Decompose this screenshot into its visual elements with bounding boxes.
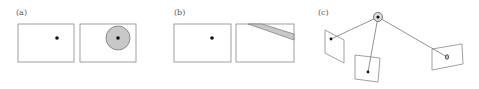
panel-a-right-point <box>116 36 120 40</box>
panel-c-center-point <box>376 15 379 18</box>
panel-c-label: (c) <box>318 8 329 17</box>
panel-b: (b) <box>174 8 294 62</box>
panel-b-label: (b) <box>174 8 185 17</box>
panel-c-ray-left <box>331 17 378 39</box>
panel-a-label: (a) <box>16 8 27 17</box>
panel-a-left-point <box>55 36 59 40</box>
panel-c: (c) <box>318 8 463 82</box>
panel-c-right-point <box>445 55 448 60</box>
panel-b-left-frame <box>174 24 231 62</box>
panel-b-left-point <box>210 36 214 40</box>
panel-c-ray-right <box>378 17 447 57</box>
diagram-canvas: (a) (b) (c) <box>0 0 479 89</box>
panel-c-middle-plane <box>355 55 380 82</box>
panel-c-middle-point <box>367 71 370 74</box>
panel-a-left-frame <box>18 24 74 62</box>
panel-c-left-plane <box>325 30 344 63</box>
panel-c-left-point <box>330 38 333 41</box>
panel-a: (a) <box>16 8 136 62</box>
